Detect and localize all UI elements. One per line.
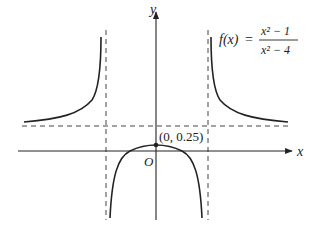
left-branch (24, 37, 101, 122)
point-marker (154, 143, 159, 148)
x-axis-label: x (296, 144, 304, 159)
y-axis-label: y (148, 2, 157, 17)
function-formula: f(x) = x² − 1 x² − 4 (219, 24, 298, 57)
function-graph: y x O (0, 0.25) f(x) = x² − 1 x² − 4 (0, 0, 323, 232)
formula-numerator: x² − 1 (260, 24, 290, 38)
point-label: (0, 0.25) (159, 129, 203, 144)
formula-denominator: x² − 4 (260, 43, 290, 57)
formula-equals: = (245, 32, 253, 47)
origin-label: O (144, 154, 154, 169)
formula-lhs: f(x) (219, 32, 239, 48)
